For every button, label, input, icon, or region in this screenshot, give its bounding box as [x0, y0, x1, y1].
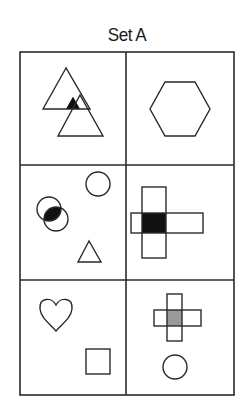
overlap-gray-square-icon — [167, 310, 182, 326]
set-grid — [0, 0, 246, 414]
triangle-shape — [43, 68, 90, 109]
circle-shape — [86, 172, 110, 196]
grid-lines — [20, 52, 234, 395]
overlap-black-square-icon — [142, 213, 166, 233]
cell-r3c1 — [40, 299, 110, 374]
cell-r1c1 — [43, 68, 103, 136]
cell-r2c2 — [131, 187, 203, 258]
square-shape — [86, 349, 110, 374]
triangle-shape — [78, 241, 101, 262]
cell-r2c1 — [37, 172, 110, 262]
cell-r3c2 — [154, 294, 201, 379]
cell-r1c2 — [150, 82, 210, 136]
heart-shape — [40, 299, 72, 331]
circle-shape — [163, 355, 187, 379]
hexagon-shape — [150, 82, 210, 136]
triangle-shape — [58, 95, 103, 136]
